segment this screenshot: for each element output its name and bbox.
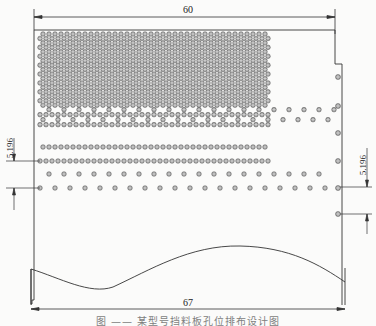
hole-icon <box>224 122 229 127</box>
hole-icon <box>146 90 151 95</box>
hole-icon <box>227 172 232 177</box>
hole-icon <box>173 94 178 99</box>
hole-icon <box>170 122 175 127</box>
hole-icon <box>110 112 115 117</box>
hole-icon <box>206 54 211 59</box>
hole-icon <box>212 107 217 112</box>
hole-icon <box>260 159 265 164</box>
hole-icon <box>143 186 148 191</box>
hole-icon <box>44 112 49 117</box>
hole-icon <box>98 159 103 164</box>
hole-icon <box>137 94 142 99</box>
hole-icon <box>143 58 148 63</box>
hole-icon <box>137 58 142 63</box>
hole-icon <box>116 81 121 86</box>
hole-icon <box>233 76 238 81</box>
hole-icon <box>122 72 127 77</box>
hole-icon <box>224 54 229 59</box>
hole-icon <box>197 41 202 46</box>
hole-icon <box>71 41 76 46</box>
hole-icon <box>122 172 127 177</box>
hole-icon <box>191 50 196 55</box>
hole-icon <box>71 145 76 150</box>
hole-icon <box>263 76 268 81</box>
hole-icon <box>254 122 259 127</box>
hole-icon <box>209 103 214 108</box>
hole-icon <box>260 81 265 86</box>
hole-icon <box>336 186 341 191</box>
hole-icon <box>173 76 178 81</box>
hole-icon <box>224 90 229 95</box>
hole-icon <box>227 32 232 37</box>
hole-icon <box>80 45 85 50</box>
hole-icon <box>336 159 341 164</box>
hole-icon <box>92 72 97 77</box>
hole-icon <box>77 76 82 81</box>
hole-icon <box>107 85 112 90</box>
hole-icon <box>161 50 166 55</box>
hole-icon <box>263 145 268 150</box>
hole-icon <box>191 32 196 37</box>
hole-icon <box>197 67 202 72</box>
hole-icon <box>167 145 172 150</box>
hole-icon <box>152 90 157 95</box>
hole-icon <box>245 67 250 72</box>
hole-icon <box>218 159 223 164</box>
hole-icon <box>143 67 148 72</box>
hole-icon <box>179 76 184 81</box>
hole-icon <box>92 90 97 95</box>
hole-icon <box>200 36 205 41</box>
hole-icon <box>164 45 169 50</box>
hole-icon <box>266 81 271 86</box>
hole-icon <box>266 63 271 68</box>
hole-icon <box>254 90 259 95</box>
hole-icon <box>188 98 193 103</box>
hole-icon <box>263 41 268 46</box>
hole-icon <box>248 54 253 59</box>
hole-icon <box>92 172 97 177</box>
hole-icon <box>167 76 172 81</box>
hole-icon <box>221 32 226 37</box>
hole-icon <box>233 94 238 99</box>
hole-icon <box>239 76 244 81</box>
hole-icon <box>38 54 43 59</box>
hole-icon <box>68 90 73 95</box>
hole-icon <box>254 159 259 164</box>
hole-icon <box>260 112 265 117</box>
hole-icon <box>176 117 181 122</box>
hole-icon <box>101 85 106 90</box>
hole-icon <box>50 112 55 117</box>
hole-icon <box>245 103 250 108</box>
hole-icon <box>86 90 91 95</box>
hole-icon <box>170 159 175 164</box>
hole-icon <box>47 94 52 99</box>
hole-icon <box>158 72 163 77</box>
hole-icon <box>122 45 127 50</box>
hole-icon <box>113 186 118 191</box>
hole-icon <box>92 45 97 50</box>
hole-icon <box>251 117 256 122</box>
hole-icon <box>221 85 226 90</box>
hole-icon <box>266 98 271 103</box>
hole-icon <box>257 50 262 55</box>
hole-icon <box>215 103 220 108</box>
hole-icon <box>203 67 208 72</box>
hole-icon <box>116 122 121 127</box>
hole-icon <box>62 63 67 68</box>
hole-icon <box>155 145 160 150</box>
hole-icon <box>143 85 148 90</box>
hole-icon <box>83 32 88 37</box>
hole-icon <box>107 103 112 108</box>
hole-icon <box>263 50 268 55</box>
hole-icon <box>215 50 220 55</box>
hole-icon <box>188 36 193 41</box>
hole-icon <box>287 172 292 177</box>
hole-icon <box>218 98 223 103</box>
hole-icon <box>80 72 85 77</box>
hole-icon <box>254 81 259 86</box>
hole-icon <box>98 45 103 50</box>
hole-icon <box>263 85 268 90</box>
hole-icon <box>194 63 199 68</box>
hole-icon <box>50 63 55 68</box>
hole-icon <box>161 67 166 72</box>
